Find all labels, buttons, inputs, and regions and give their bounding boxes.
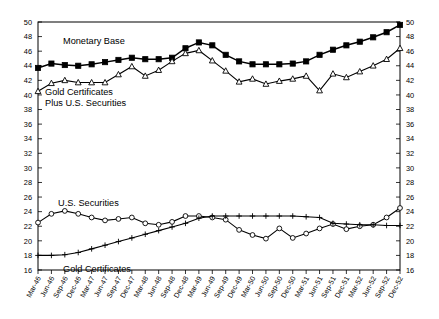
data-point-marker [397, 22, 402, 27]
y-tick-label-left: 36 [24, 120, 32, 129]
y-tick-label-left: 30 [24, 164, 32, 173]
data-point-marker [223, 68, 229, 73]
data-point-marker [116, 71, 122, 76]
data-point-marker [210, 43, 215, 48]
y-tick-label-left: 24 [24, 207, 32, 216]
data-point-marker [129, 63, 135, 68]
y-tick-label-left: 18 [24, 251, 32, 260]
series-annotation-label: Gold Certificates [63, 264, 131, 274]
y-tick-label-right: 16 [406, 266, 414, 275]
data-point-marker [76, 211, 81, 216]
data-point-marker [156, 67, 162, 72]
y-tick-label-right: 34 [406, 134, 414, 143]
y-tick-label-right: 38 [406, 105, 414, 114]
y-tick-label-right: 30 [406, 164, 414, 173]
data-point-marker [317, 226, 322, 231]
series-annotation-label: Plus U.S. Securities [45, 98, 127, 108]
data-point-marker [116, 57, 121, 62]
y-tick-label-left: 46 [24, 47, 32, 56]
series-line [38, 216, 400, 255]
data-point-marker [250, 62, 255, 67]
chart-canvas: 1616181820202222242426262828303032323434… [0, 0, 439, 319]
y-tick-label-left: 20 [24, 237, 32, 246]
y-tick-label-right: 42 [406, 76, 414, 85]
data-point-marker [237, 227, 242, 232]
y-tick-label-right: 40 [406, 91, 414, 100]
data-point-marker [196, 47, 202, 52]
data-point-marker [143, 221, 148, 226]
data-point-marker [330, 47, 335, 52]
data-point-marker [384, 215, 389, 220]
data-point-marker [129, 215, 134, 220]
data-point-marker [263, 62, 268, 67]
data-point-marker [223, 52, 228, 57]
y-tick-label-right: 32 [406, 149, 414, 158]
y-tick-label-left: 22 [24, 222, 32, 231]
data-point-marker [102, 60, 107, 65]
y-tick-label-right: 50 [406, 18, 414, 27]
y-tick-label-left: 16 [24, 266, 32, 275]
data-point-marker [62, 77, 68, 82]
data-point-marker [344, 43, 349, 48]
data-point-marker [303, 73, 309, 78]
data-point-marker [156, 57, 161, 62]
series-3 [36, 206, 403, 241]
data-point-marker [49, 61, 54, 66]
data-point-marker [89, 62, 94, 67]
data-point-marker [277, 62, 282, 67]
series-line [38, 208, 400, 239]
data-point-marker [357, 39, 362, 44]
y-tick-label-right: 28 [406, 178, 414, 187]
series-annotation-label: Gold Certificates [45, 87, 113, 97]
y-tick-label-right: 24 [406, 207, 414, 216]
data-point-marker [397, 45, 403, 50]
data-point-marker [183, 214, 188, 219]
data-point-marker [344, 227, 349, 232]
data-point-marker [264, 236, 269, 241]
data-point-marker [196, 40, 201, 45]
data-point-marker [290, 236, 295, 241]
y-tick-label-right: 46 [406, 47, 414, 56]
y-tick-label-right: 36 [406, 120, 414, 129]
data-point-marker [290, 61, 295, 66]
data-point-marker [35, 65, 40, 70]
y-tick-label-left: 42 [24, 76, 32, 85]
y-tick-label-right: 20 [406, 237, 414, 246]
data-point-marker [371, 35, 376, 40]
data-point-marker [156, 222, 161, 227]
data-point-marker [304, 231, 309, 236]
data-point-marker [277, 226, 282, 231]
y-tick-label-right: 44 [406, 61, 414, 70]
data-point-marker [330, 71, 336, 76]
y-tick-label-left: 26 [24, 193, 32, 202]
y-tick-label-left: 48 [24, 32, 32, 41]
data-point-marker [143, 57, 148, 62]
y-tick-label-left: 40 [24, 91, 32, 100]
y-tick-label-right: 18 [406, 251, 414, 260]
data-point-marker [89, 215, 94, 220]
y-tick-label-right: 48 [406, 32, 414, 41]
y-tick-label-left: 44 [24, 61, 32, 70]
y-tick-label-right: 22 [406, 222, 414, 231]
plot-frame [38, 22, 400, 270]
y-tick-label-left: 34 [24, 134, 32, 143]
series-annotation-label: U.S. Securities [58, 198, 119, 208]
y-tick-label-right: 26 [406, 193, 414, 202]
data-point-marker [62, 209, 67, 214]
data-point-marker [49, 211, 54, 216]
data-point-marker [103, 218, 108, 223]
data-point-marker [170, 219, 175, 224]
data-point-marker [250, 233, 255, 238]
data-point-marker [209, 58, 215, 63]
y-tick-label-left: 32 [24, 149, 32, 158]
series-1 [35, 22, 402, 70]
series-annotation-label: Monetary Base [63, 36, 125, 46]
y-tick-label-left: 38 [24, 105, 32, 114]
data-point-marker [398, 206, 403, 211]
data-point-marker [62, 62, 67, 67]
data-point-marker [237, 59, 242, 64]
data-point-marker [116, 217, 121, 222]
chart-container: 1616181820202222242426262828303032323434… [0, 0, 439, 319]
data-point-marker [304, 59, 309, 64]
y-tick-label-left: 50 [24, 18, 32, 27]
